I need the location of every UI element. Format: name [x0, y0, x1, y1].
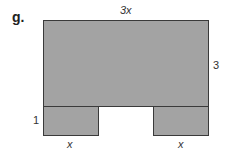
top-height-label: 3 [213, 60, 219, 71]
top-width-label: 3x [120, 5, 132, 16]
bottom-left-rectangle [43, 106, 99, 136]
bottom-left-height-label: 1 [33, 115, 39, 126]
problem-label: g. [12, 10, 24, 24]
bottom-right-rectangle [153, 106, 209, 136]
top-rectangle [43, 20, 209, 107]
bottom-left-width-label: x [67, 139, 73, 150]
bottom-right-width-label: x [178, 139, 184, 150]
